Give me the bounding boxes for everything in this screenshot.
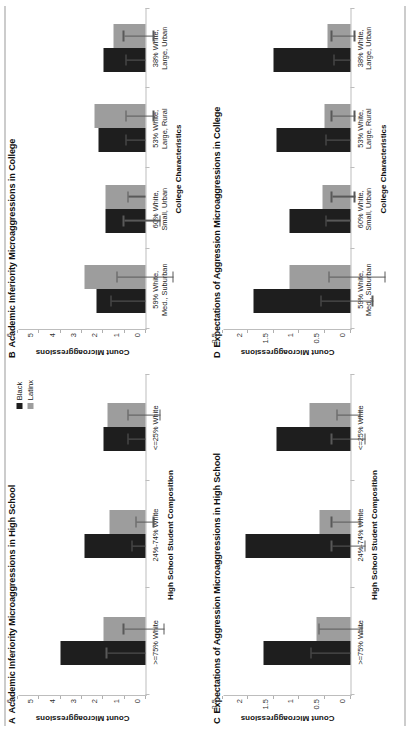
panel-a-bar-latinx [107,404,145,428]
panel-a-errorbar [136,522,153,523]
panel-c-xtick-label: <=25% White [356,374,365,481]
panel-a-errorbar-cap-bottom [163,624,164,635]
panel-d-errorbar [321,300,372,301]
panel-a-xlabels: >=75% White24%-74% White<=25% White [151,374,160,696]
panel-a-title-text: Academic Inferiority Microaggressions in… [6,485,16,714]
panel-d-xtick-label: 53% White, Large, Rural [356,89,373,170]
panel-c-errorbar [332,439,365,440]
panel-c-ytick-label: 1.5 [260,699,269,709]
panel-d-ytick-label: 1.5 [260,333,269,343]
panel-c-ytick-label: 2 [235,699,244,703]
panel-c-plot [223,374,351,696]
panel-a-errorbar [124,629,165,630]
panel-a-ytick-label: 0 [133,699,142,703]
panel-a-ytick-mark [145,696,146,699]
panel-c-groups [223,374,350,695]
panel-a-ytick-mark [38,696,39,699]
panel-b-errorbar [126,60,145,61]
panel-c-errorbar-cap-bottom [364,541,365,552]
panel-c-letter: C [211,718,221,725]
panel-c-xtick-label: 24%-74% White [356,481,365,588]
panel-a-xtick-label: <=25% White [151,374,160,481]
panel-d-errorbar-cap-top [325,135,326,146]
panel-b-bar-latinx [84,265,145,289]
panel-c-xlabel: High School Student Composition [369,374,378,696]
panel-c-errorbar-cap-top [336,410,337,421]
panel-d-errorbar [329,276,385,277]
panel-d-errorbar-cap-bottom [371,295,372,306]
panel-d-errorbar-cap-top [328,271,329,282]
panel-a-errorbar-cap-top [131,541,132,552]
panel-a-ytick-label: 6 [5,699,14,703]
panel-b-errorbar [124,36,154,37]
panel-d-ytick-label: 0.5 [311,333,320,343]
panel-c-bar-latinx [316,618,349,642]
panel-d-ytick-label: 0 [337,333,346,337]
panel-c-errorbar-cap-bottom [359,517,360,528]
panel-a-groups [18,374,145,695]
panel-b-errorbar-cap-top [122,31,123,42]
panel-a-letter: A [6,718,16,725]
panel-c-errorbar [337,415,360,416]
rotated-figure: AAcademic Inferiority Microaggressions i… [0,0,409,732]
panel-b-group [18,88,145,168]
panel-b-title-text: Academic Inferiority Microaggressions in… [6,139,16,348]
panel-c-plot-area: Count Microaggressions 00.511.522.5 [223,374,351,724]
panel-b-bar-latinx [94,104,145,128]
panel-b-xlabel: College Characteristics [173,8,182,330]
panel-b-errorbar-cap-top [110,295,111,306]
panel-b-bar-black [103,48,145,72]
panel-a-errorbar [128,415,160,416]
panel-d-errorbar-cap-top [330,191,331,202]
panel-d-ytick-mark [349,330,350,333]
panel-a-errorbar [132,546,145,547]
panel-d-letter: D [211,352,221,359]
panel-b-letter: B [6,352,16,359]
panel-d-errorbar [326,140,349,141]
panel-c-ytick-label: 0 [337,699,346,703]
panel-c-ytick-mark [349,696,350,699]
panel-b-ytick-mark [123,330,124,333]
panel-b-group [18,169,145,249]
panel-c-ytick-label: 2.5 [209,699,218,709]
panel-a-plot-area: Count Microaggressions 0123456 [18,374,146,724]
panel-c-bar-black [263,642,349,666]
panel-a-ytick-mark [123,696,124,699]
panel-a-ytick-label: 5 [26,699,35,703]
panel-a-xtick-label: >=75% White [151,589,160,696]
panel-b-xtick-label: 59% White, Med., Suburban [151,250,168,331]
panel-c-yticks: 00.511.522.5 [223,696,351,712]
panel-c-group [223,481,350,588]
panel-b-errorbar [128,196,145,197]
panel-d-errorbar [326,220,349,221]
panel-a-errorbar-cap-bottom [152,517,153,528]
panel-b-errorbar-cap-bottom [172,271,173,282]
panel-c-errorbar-cap-top [330,517,331,528]
panel-b-group [18,8,145,88]
panel-b-ytick-label: 6 [5,333,14,337]
panel-grid: AAcademic Inferiority Microaggressions i… [0,0,409,732]
panel-d-ytick-label: 1 [286,333,295,337]
panel-c-group [223,374,350,481]
panel-b-errorbar-cap-bottom [159,215,160,226]
panel-b-errorbar [126,116,154,117]
panel-a-errorbar-cap-bottom [159,410,160,421]
panel-d-errorbar-cap-bottom [353,111,354,122]
panel-a-bar-latinx [109,511,145,535]
panel-b-ytick-mark [102,330,103,333]
panel-c-errorbar [311,653,349,654]
panel-d-errorbar [332,36,355,37]
panel-c-bar-black [276,428,350,452]
figure-frame: AAcademic Inferiority Microaggressions i… [0,0,409,732]
panel-b-ytick-label: 1 [111,333,120,337]
panel-a-ytick-mark [59,696,60,699]
panel-a-ytick-mark [17,696,18,699]
panel-b-errorbar [126,140,145,141]
panel-d-title-text: Expectations of Aggression Microaggressi… [211,107,221,348]
panel-b-ytick-mark [59,330,60,333]
panel-a-ytick-mark [102,696,103,699]
panel-a-errorbar [107,653,145,654]
panel-c-xlabels: >=75% White24%-74% White<=25% White [356,374,365,696]
panel-a-yticks: 0123456 [18,696,146,712]
panel-d-plot-area: Count Microaggressions 00.511.522.5 [223,8,351,358]
